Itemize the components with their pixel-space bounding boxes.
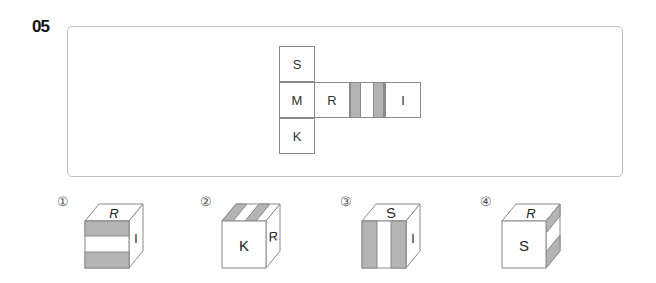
option-marker-3: ③ [340,194,352,209]
net-cell-k: K [279,118,315,154]
option-cube-2[interactable]: K R [221,196,283,270]
net-cell-label: S [293,57,302,72]
question-number: 05 [32,17,49,37]
net-cell-s: S [279,46,315,82]
cube-right-label: I [411,232,414,246]
cube-top-label: R [526,206,535,221]
net-cell-label: R [327,93,336,108]
option-cube-3[interactable]: S I [361,196,423,270]
cube-right-label: I [134,232,137,246]
option-marker-2: ② [200,194,212,209]
net-cell-label: M [292,93,303,108]
stripe [350,83,361,117]
net-cell-label: K [293,129,302,144]
net-cell-m: M [279,82,315,118]
net-cell-label: I [401,93,405,108]
option-marker-4: ④ [480,194,492,209]
stripe [373,83,384,117]
option-cube-1[interactable]: R I [84,196,146,270]
option-cube-4[interactable]: R S [501,196,563,270]
net-cell-i: I [385,82,421,118]
option-marker-1: ① [57,194,69,209]
net-cell-r: R [314,82,350,118]
net-cell-striped [349,82,385,118]
cube-top-label: R [109,206,118,221]
cube-front-label: K [239,237,249,254]
cube-front-label: S [519,237,529,254]
